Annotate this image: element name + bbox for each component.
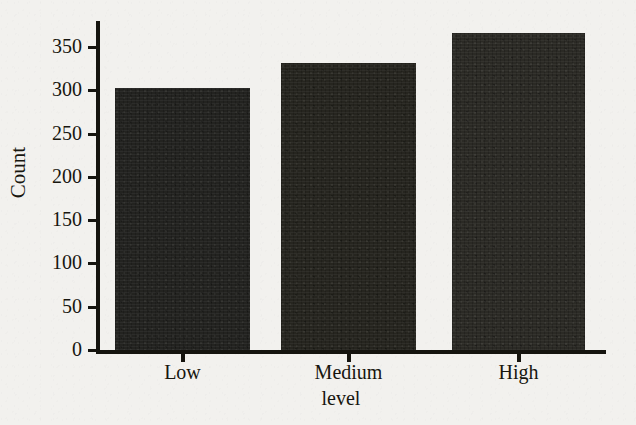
y-tick-mark — [88, 219, 97, 222]
y-tick-label: 0 — [34, 339, 82, 359]
x-tick-label-high: High — [449, 362, 589, 383]
y-tick-mark — [88, 349, 97, 352]
y-tick-mark — [88, 306, 97, 309]
y-tick-mark — [88, 133, 97, 136]
y-tick-label: 250 — [34, 123, 82, 143]
y-tick-mark — [88, 262, 97, 265]
x-tick-label-low: Low — [113, 362, 253, 383]
bar-chart-figure: 050100150200250300350 LowMediumHigh Coun… — [0, 0, 636, 425]
y-tick-mark — [88, 46, 97, 49]
bar-medium — [281, 63, 416, 350]
y-tick-label: 300 — [34, 79, 82, 99]
y-tick-label: 150 — [34, 209, 82, 229]
bar-high — [452, 33, 585, 350]
y-tick-mark — [88, 89, 97, 92]
y-tick-label: 100 — [34, 252, 82, 272]
y-tick-label: 200 — [34, 166, 82, 186]
y-tick-label: 350 — [34, 36, 82, 56]
y-tick-label: 50 — [34, 296, 82, 316]
x-tick-label-medium: Medium — [279, 362, 419, 383]
x-axis-spine — [96, 350, 606, 354]
y-tick-mark — [88, 176, 97, 179]
y-axis-spine — [96, 21, 100, 353]
x-axis-title: level — [271, 387, 411, 410]
y-axis-title: Count — [6, 128, 31, 218]
bar-low — [115, 88, 250, 350]
